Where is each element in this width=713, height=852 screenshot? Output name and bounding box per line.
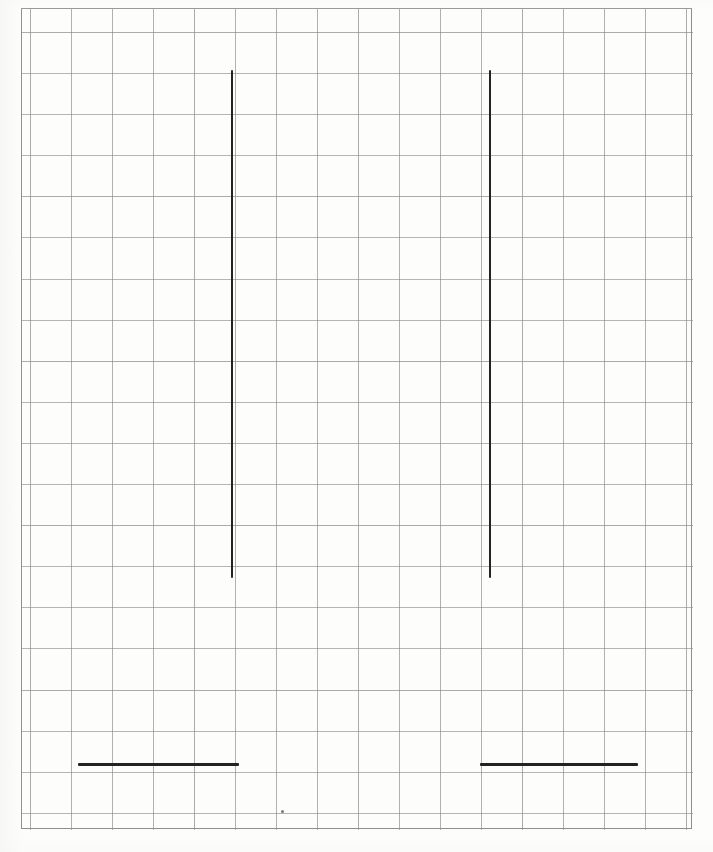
left-vertical-stroke — [231, 70, 233, 578]
left-horizontal-stroke — [78, 763, 239, 766]
right-horizontal-stroke — [480, 763, 638, 766]
graph-grid-frame — [21, 8, 692, 829]
paper-speck — [281, 810, 284, 813]
figure-canvas — [0, 0, 713, 852]
right-vertical-stroke — [489, 70, 491, 578]
